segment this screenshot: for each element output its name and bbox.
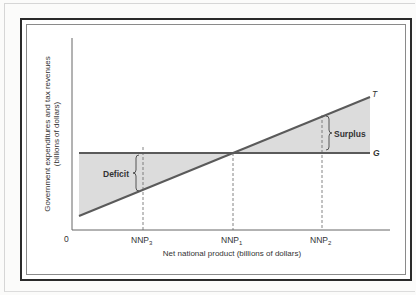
tick-nnp2: NNP2 — [310, 235, 332, 246]
y-axis-title-line1: Government expenditures and tax revenues — [43, 56, 52, 212]
t-series-label: T — [372, 89, 378, 99]
origin-label: 0 — [64, 234, 69, 244]
tick-nnp3: NNP3 — [131, 235, 153, 246]
tick-nnp1: NNP1 — [221, 235, 243, 246]
x-axis-title: Net national product (billions of dollar… — [163, 249, 302, 258]
g-series-label: G — [373, 148, 380, 158]
surplus-label: Surplus — [334, 129, 366, 139]
chart: Deficit Surplus T G 0 NNP3 NNP1 NNP2 Net… — [0, 0, 416, 295]
y-axis-title-line2: (billions of dollars) — [52, 101, 61, 166]
deficit-label: Deficit — [103, 169, 129, 179]
